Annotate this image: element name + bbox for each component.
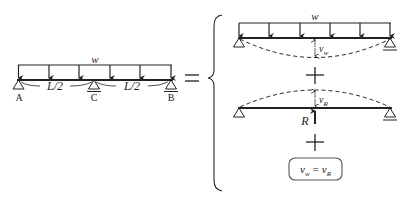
span-dimension-curves <box>21 82 168 86</box>
roller-support-icon <box>166 80 177 89</box>
support-label-c: C <box>91 92 98 103</box>
deflection-label-vw: vw <box>319 43 328 57</box>
support-label-a: A <box>15 92 23 103</box>
plus-sign <box>306 67 324 84</box>
pin-support-icon <box>234 38 245 47</box>
pin-support-icon <box>234 108 245 117</box>
reaction-label-r: R <box>300 114 309 128</box>
superposition-diagram: w L/2 L/2 A C B <box>0 0 413 197</box>
deflection-label-vr: vR <box>319 94 328 108</box>
distributed-load-arrows <box>19 65 172 78</box>
support-label-b: B <box>168 92 175 103</box>
plus-sign <box>306 134 324 151</box>
distributed-load-arrows <box>239 23 390 36</box>
beam-with-redundant-system: vR R <box>234 90 398 128</box>
pin-support-icon <box>13 80 24 89</box>
curly-brace <box>208 15 222 191</box>
load-label-w: w <box>311 10 319 22</box>
left-beam-system: w L/2 L/2 A C B <box>13 53 178 103</box>
roller-support-icon <box>89 80 100 89</box>
roller-support-icon <box>385 108 396 117</box>
span-label-1: L/2 <box>46 79 63 93</box>
compatibility-condition: vw=vR <box>289 158 342 180</box>
beam-with-load-system: w vw <box>234 10 398 58</box>
equals-sign <box>185 75 199 81</box>
span-label-2: L/2 <box>123 79 140 93</box>
load-label-w: w <box>91 53 99 65</box>
